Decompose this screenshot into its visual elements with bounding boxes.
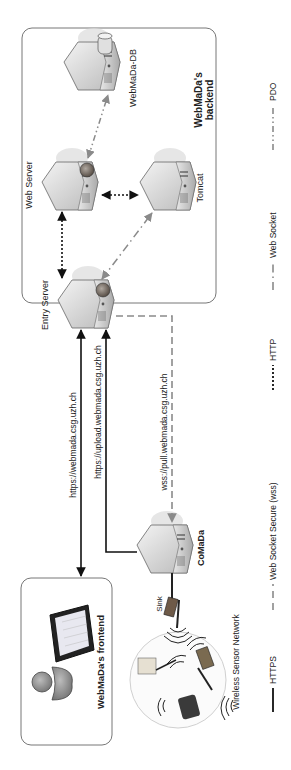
legend-label-websocket: Web Socket xyxy=(268,212,278,258)
comada-server-icon xyxy=(137,511,193,573)
frontend-title: WebMaDa's frontend xyxy=(95,615,106,709)
upload-url-label: https://upload.webmada.csg.uzh.ch xyxy=(93,345,103,479)
tablet-icon xyxy=(50,605,94,662)
legend-label-pdo: PDO xyxy=(268,82,278,101)
backend-title-line1: WebMaDa's xyxy=(193,72,204,128)
legend-label-https: HTTPS xyxy=(268,656,278,684)
user-icon xyxy=(32,667,72,700)
globe-icon xyxy=(80,163,94,177)
web-server-icon xyxy=(42,148,98,210)
architecture-diagram: WebMaDa's backend WebMaDa-DB Web Server … xyxy=(0,0,291,770)
sensor-network-circle xyxy=(130,632,226,728)
globe-icon xyxy=(96,283,110,297)
backend-title-line2: backend xyxy=(204,80,215,121)
legend-label-http: HTTP xyxy=(268,338,278,361)
tomcat-server-icon xyxy=(140,148,196,210)
web-server-label: Web Server xyxy=(24,161,34,208)
db-server-icon xyxy=(64,28,120,90)
comada-label: CoMaDa xyxy=(196,529,206,566)
websocket-connection xyxy=(102,213,152,279)
pull-url-label: wss://pull.webmada.csg.uzh.ch xyxy=(159,373,169,491)
frontend-url-label: https://webmada.csg.uzh.ch xyxy=(68,392,78,498)
legend: HTTPS Web Socket Secure (wss) HTTP Web S… xyxy=(268,82,278,712)
sensor-network-label: Wireless Sensor Network xyxy=(231,614,241,710)
tomcat-label: Tomcat xyxy=(195,173,205,203)
https-connection-upload xyxy=(106,330,137,552)
legend-label-wss: Web Socket Secure (wss) xyxy=(268,482,278,580)
sink-label: Sink xyxy=(155,595,164,612)
db-label: WebMaDa-DB xyxy=(128,49,138,107)
entry-server-label: Entry Server xyxy=(40,280,50,330)
sink-node-icon xyxy=(164,597,179,628)
pdo-connection xyxy=(88,95,108,158)
